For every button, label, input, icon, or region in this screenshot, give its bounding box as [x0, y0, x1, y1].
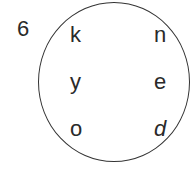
letter-y: y	[70, 71, 81, 93]
letter-e: e	[154, 71, 166, 93]
letter-d: d	[154, 118, 166, 140]
letter-k: k	[70, 24, 81, 46]
problem-number: 6	[17, 18, 29, 40]
letter-n: n	[154, 24, 166, 46]
letter-o: o	[70, 118, 82, 140]
letter-circle	[38, 2, 190, 162]
